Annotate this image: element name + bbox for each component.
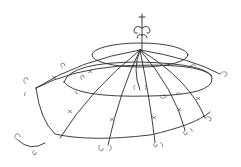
canopy-illustration (0, 0, 241, 167)
finial (134, 14, 150, 50)
wire-canopy-drawing (0, 0, 241, 167)
outer-rim (18, 65, 212, 147)
wire-ties (52, 70, 200, 121)
decorative-scrolls (15, 63, 227, 155)
